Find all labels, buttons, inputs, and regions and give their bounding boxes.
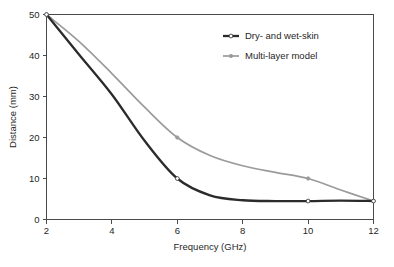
chart-figure: 0102030405024681012Frequency (GHz)Distan…	[0, 0, 394, 267]
y-tick-label: 40	[29, 50, 40, 61]
x-tick-label: 4	[109, 225, 114, 236]
y-tick-label: 0	[34, 214, 39, 225]
y-tick-label: 30	[29, 91, 40, 102]
x-tick-label: 8	[240, 225, 245, 236]
x-tick-label: 6	[175, 225, 180, 236]
series-line-1	[47, 15, 374, 202]
series-marker-1	[175, 177, 179, 181]
legend-label-1: Dry- and wet-skin	[245, 30, 319, 41]
series-marker-1	[372, 199, 376, 203]
x-tick-label: 12	[368, 225, 379, 236]
y-tick-label: 10	[29, 173, 40, 184]
plot-frame	[47, 15, 374, 220]
x-axis-title: Frequency (GHz)	[174, 241, 247, 252]
legend-label-2: Multi-layer model	[245, 50, 317, 61]
y-tick-label: 50	[29, 9, 40, 20]
line-chart: 0102030405024681012Frequency (GHz)Distan…	[0, 0, 394, 267]
series-marker-2	[306, 177, 309, 180]
x-tick-label: 10	[303, 225, 314, 236]
legend-marker-1	[229, 34, 233, 38]
x-tick-label: 2	[44, 225, 49, 236]
legend-marker-2	[229, 54, 232, 57]
series-marker-1	[45, 13, 49, 17]
series-marker-2	[176, 136, 179, 139]
series-marker-1	[306, 199, 310, 203]
y-axis-title: Distance (mm)	[7, 86, 18, 148]
y-tick-label: 20	[29, 132, 40, 143]
series-line-2	[47, 15, 374, 202]
